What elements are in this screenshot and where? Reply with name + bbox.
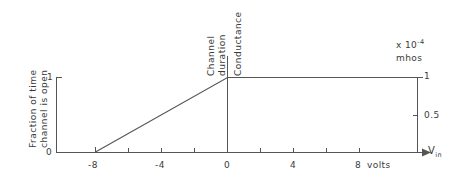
channel-conductance-figure: Fraction of time channel is open Channel…: [0, 0, 453, 180]
x-axis-arrowhead: [422, 149, 431, 157]
plot-axes-and-data: [0, 0, 453, 180]
data-series-line: [96, 78, 418, 153]
